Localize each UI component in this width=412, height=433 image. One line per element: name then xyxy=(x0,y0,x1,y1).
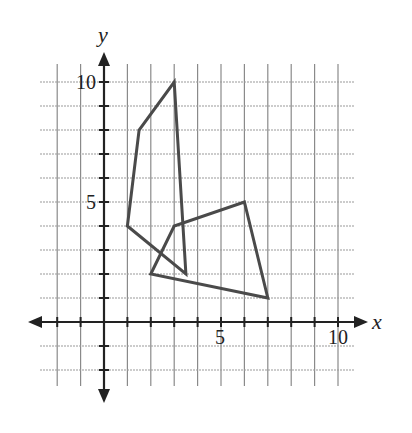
x-axis-label: x xyxy=(371,309,382,334)
coordinate-plane: y x 10 5 5 10 xyxy=(0,0,412,433)
y-tick-label-5: 5 xyxy=(86,191,96,213)
y-tick-label-10: 10 xyxy=(76,71,96,93)
x-axis-arrow-right-icon xyxy=(354,316,368,328)
x-axis-arrow-left-icon xyxy=(28,316,42,328)
y-axis-arrow-down-icon xyxy=(98,389,110,403)
y-axis-arrow-up-icon xyxy=(98,52,110,66)
x-tick-label-5: 5 xyxy=(215,326,225,348)
y-axis-label: y xyxy=(96,22,108,47)
x-tick-label-10: 10 xyxy=(328,326,348,348)
grid-lines xyxy=(40,64,354,386)
